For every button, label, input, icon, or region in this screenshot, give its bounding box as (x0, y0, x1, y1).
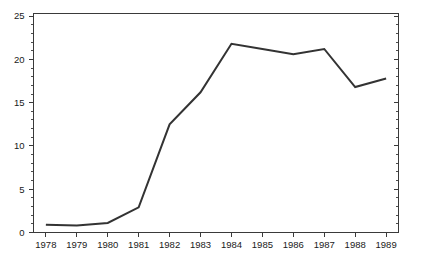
x-tick-label-1986: 1986 (283, 239, 304, 250)
x-tick-label-1981: 1981 (128, 239, 149, 250)
x-tick-label-1980: 1980 (97, 239, 118, 250)
x-tick-label-1983: 1983 (190, 239, 211, 250)
x-tick-label-1985: 1985 (252, 239, 273, 250)
line-chart: 0510152025 19781979198019811982198319841… (0, 0, 421, 258)
y-tick-label-10: 10 (14, 140, 25, 151)
x-tick-label-1982: 1982 (159, 239, 180, 250)
chart-canvas: 0510152025 19781979198019811982198319841… (0, 0, 421, 258)
y-tick-label-20: 20 (14, 54, 25, 65)
x-tick-label-1984: 1984 (221, 239, 242, 250)
y-tick-label-25: 25 (14, 10, 25, 21)
y-tick-label-5: 5 (19, 184, 24, 195)
x-tick-label-1978: 1978 (35, 239, 56, 250)
y-tick-label-15: 15 (14, 97, 25, 108)
y-tick-label-0: 0 (19, 227, 24, 238)
x-tick-label-1987: 1987 (314, 239, 335, 250)
x-tick-label-1979: 1979 (66, 239, 87, 250)
chart-background (0, 0, 421, 258)
x-tick-label-1988: 1988 (345, 239, 366, 250)
x-tick-label-1989: 1989 (376, 239, 397, 250)
